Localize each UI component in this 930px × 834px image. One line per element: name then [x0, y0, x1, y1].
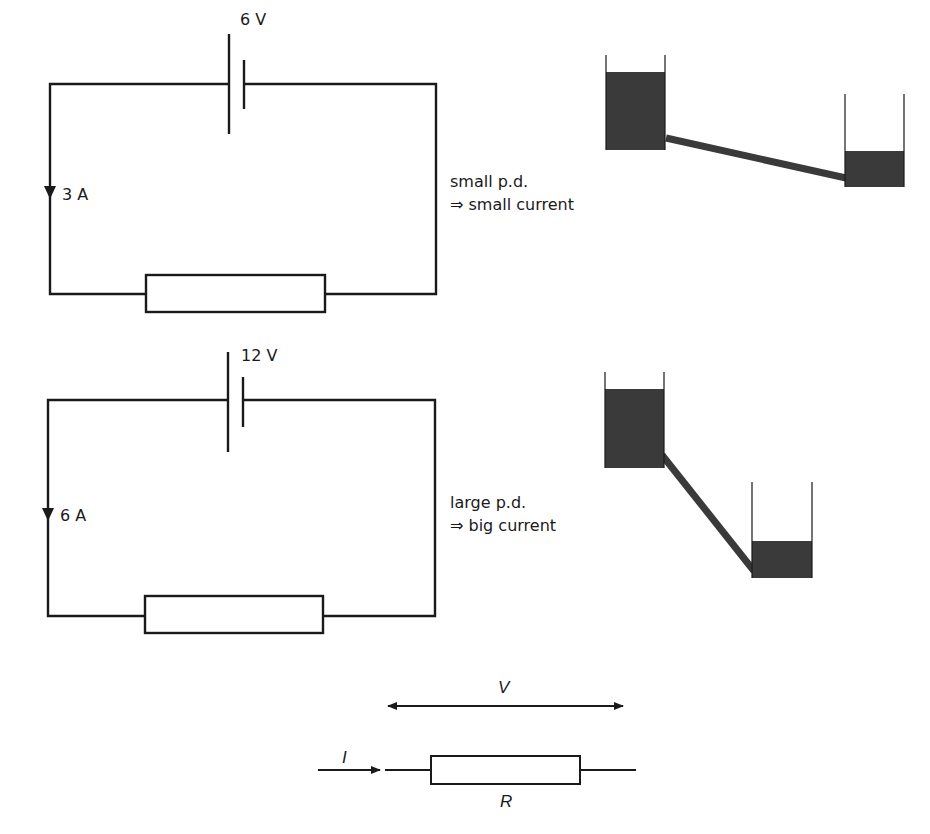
tank-high-water — [606, 72, 665, 150]
diagram-canvas — [0, 0, 930, 834]
ohm-law-diagram — [318, 706, 636, 784]
current-label-3a: 3 A — [62, 185, 88, 205]
caption-small-line1: small p.d. — [450, 172, 528, 192]
circuit-large-pd — [42, 352, 435, 633]
caption-small-line2: ⇒ small current — [450, 195, 574, 215]
wire — [244, 84, 436, 294]
tank-high-water — [605, 389, 664, 468]
current-symbol: I — [342, 748, 347, 768]
resistance-symbol: R — [500, 792, 512, 812]
resistor — [145, 596, 323, 633]
voltage-label-12v: 12 V — [241, 346, 277, 366]
resistor — [146, 275, 325, 312]
water-analogy-large — [605, 372, 812, 578]
resistor — [431, 756, 580, 784]
pipe — [666, 138, 846, 178]
caption-large-line1: large p.d. — [450, 493, 526, 513]
tank-low-water — [845, 151, 904, 187]
caption-large-line2: ⇒ big current — [450, 516, 556, 536]
pipe — [662, 455, 754, 571]
current-label-6a: 6 A — [60, 506, 86, 526]
voltage-symbol: V — [498, 678, 509, 698]
wire — [243, 400, 435, 616]
circuit-small-pd — [44, 34, 436, 312]
current-arrow-icon — [42, 508, 54, 521]
voltage-label-6v: 6 V — [240, 10, 266, 30]
tank-low-water — [752, 541, 812, 578]
current-arrow-icon — [44, 186, 56, 199]
water-analogy-small — [606, 55, 904, 187]
